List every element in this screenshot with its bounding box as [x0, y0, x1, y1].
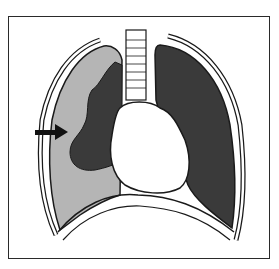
trachea [126, 30, 146, 100]
chest-diagram [0, 0, 279, 269]
